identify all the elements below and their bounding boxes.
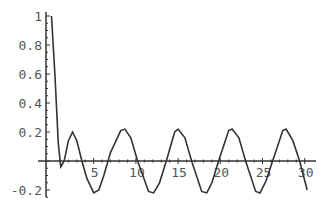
y-tick-label: 0.2 (19, 125, 42, 140)
x-tick-label: 5 (91, 165, 99, 180)
y-tick-label: 0.6 (19, 67, 42, 82)
y-tick-label: 0.8 (19, 38, 42, 53)
x-tick-label: 30 (298, 165, 314, 180)
x-tick-label: 15 (171, 165, 187, 180)
y-tick-label: 1 (34, 9, 42, 24)
line-chart: 10.80.60.40.2-0.2 51015202530 (0, 0, 326, 214)
x-axis: 51015202530 (38, 158, 316, 180)
y-tick-label: -0.2 (11, 183, 42, 198)
y-tick-label: 0.4 (19, 96, 43, 111)
y-axis: 10.80.60.40.2-0.2 (11, 9, 50, 198)
